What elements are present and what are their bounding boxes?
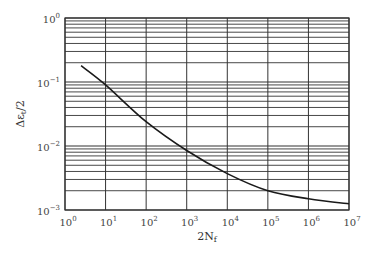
x-tick-labels: 100101102103104105106107 — [59, 215, 360, 228]
y-tick-label: 10−2 — [37, 140, 60, 153]
x-tick-label: 100 — [59, 215, 76, 228]
x-axis-label: 2Nf — [197, 230, 218, 244]
y-tick-label: 10−3 — [37, 204, 60, 217]
x-tick-label: 107 — [343, 215, 360, 228]
y-tick-label: 10−1 — [37, 76, 60, 89]
x-tick-label: 103 — [181, 215, 198, 228]
plot-frame — [65, 18, 349, 210]
x-tick-label: 101 — [100, 215, 117, 228]
grid-lines — [65, 18, 349, 210]
y-tick-labels: 10−310−210−1100 — [37, 12, 60, 217]
x-tick-label: 102 — [141, 215, 158, 228]
y-axis-label: Δεt/2 — [14, 100, 28, 128]
x-tick-label: 105 — [262, 215, 279, 228]
x-tick-label: 106 — [303, 215, 321, 228]
strain-life-chart: 100101102103104105106107 10−310−210−1100… — [0, 0, 378, 261]
y-tick-label: 100 — [43, 12, 60, 25]
x-tick-label: 104 — [222, 215, 240, 228]
